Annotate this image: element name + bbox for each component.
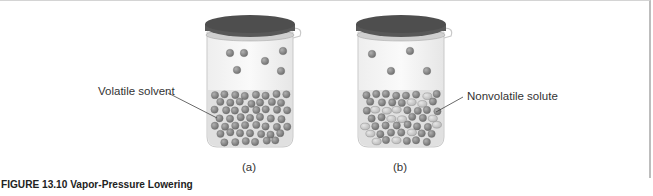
solvent-particle <box>246 114 253 121</box>
beaker-b <box>356 15 452 147</box>
figure-caption: FIGURE 13.10 Vapor-Pressure Lowering <box>1 178 193 190</box>
solvent-particle <box>242 106 249 113</box>
solute-particle <box>432 121 441 128</box>
solvent-particle <box>429 98 436 105</box>
solvent-particle <box>382 122 389 129</box>
solvent-particle <box>236 98 243 105</box>
solvent-particle <box>378 99 385 106</box>
solute-particle <box>397 116 406 123</box>
solvent-particle <box>283 91 290 98</box>
solvent-particle <box>227 99 234 106</box>
solvent-particle <box>363 91 370 98</box>
callout-volatile-solvent: Volatile solvent <box>98 85 175 97</box>
solvent-particle <box>241 121 248 128</box>
solvent-particle <box>277 99 284 106</box>
solvent-particle <box>248 100 255 107</box>
solvent-particle <box>268 98 275 105</box>
solute-particle <box>372 138 381 145</box>
solvent-particle <box>283 107 290 114</box>
solvent-particle <box>211 91 218 98</box>
solvent-particle <box>423 138 430 145</box>
solvent-particle <box>284 123 291 130</box>
solvent-particle <box>424 123 431 130</box>
solvent-particle <box>412 137 419 144</box>
solvent-particle <box>393 92 400 99</box>
solvent-particle <box>277 129 284 136</box>
solvent-particle <box>377 130 384 137</box>
solvent-particle <box>402 92 409 99</box>
solute-particle <box>392 106 401 113</box>
solvent-particle <box>373 90 380 97</box>
solvent-particle <box>221 91 228 98</box>
solvent-particle <box>241 92 248 99</box>
solvent-particle <box>246 130 253 137</box>
solvent-particle <box>232 91 239 98</box>
vapor-molecule <box>233 66 241 74</box>
solvent-particle <box>418 130 425 137</box>
solute-particle <box>407 99 416 106</box>
solvent-particle <box>263 137 270 144</box>
solvent-particle <box>273 106 280 113</box>
solvent-particle <box>226 115 233 122</box>
solvent-particle <box>368 115 375 122</box>
solute-particle <box>366 130 375 137</box>
solvent-particle <box>222 107 229 114</box>
solvent-particle <box>404 107 411 114</box>
solvent-particle <box>414 107 421 114</box>
solvent-particle <box>363 107 370 114</box>
solvent-particle <box>412 91 419 98</box>
solvent-particle <box>262 123 269 130</box>
vapor-molecule <box>279 47 287 55</box>
solvent-particle <box>252 91 259 98</box>
vapor-molecule <box>261 57 269 65</box>
solute-particle <box>387 115 396 122</box>
solute-particle <box>428 115 437 122</box>
vapor-molecule <box>387 67 395 75</box>
solvent-particle <box>237 113 244 120</box>
solvent-particle <box>409 113 416 120</box>
solvent-particle <box>232 122 239 129</box>
solvent-particle <box>278 116 285 123</box>
solvent-particle <box>256 113 263 120</box>
solvent-particle <box>372 122 379 129</box>
solvent-particle <box>398 99 405 106</box>
solute-particle <box>382 107 391 114</box>
solvent-particle <box>267 115 274 122</box>
solvent-particle <box>262 92 269 99</box>
solute-particle <box>392 137 401 144</box>
solvent-particle <box>221 123 228 130</box>
solute-particle <box>418 100 427 107</box>
vapor-molecule <box>368 50 376 58</box>
solvent-particle <box>393 122 400 129</box>
solvent-particle <box>433 90 440 97</box>
solute-particle <box>361 123 370 130</box>
solvent-particle <box>272 137 279 144</box>
solvent-particle <box>378 114 385 121</box>
solvent-particle <box>428 130 435 137</box>
callout-nonvolatile-solute: Nonvolatile solute <box>467 90 558 102</box>
solvent-particle <box>382 136 389 143</box>
solvent-particle <box>216 115 223 122</box>
solute-particle <box>407 129 416 136</box>
solvent-particle <box>253 121 260 128</box>
vapor-molecule <box>406 47 414 55</box>
solvent-particle <box>217 98 224 105</box>
solvent-particle <box>231 107 238 114</box>
solvent-particle <box>367 98 374 105</box>
solvent-particle <box>217 130 224 137</box>
solvent-particle <box>257 130 264 137</box>
solvent-particle <box>211 122 218 129</box>
panel-label-a: (a) <box>242 161 256 173</box>
vapor-molecule <box>277 67 285 75</box>
solvent-particle <box>403 137 410 144</box>
solvent-particle <box>398 129 405 136</box>
solvent-particle <box>382 90 389 97</box>
vapor-molecule <box>423 67 431 75</box>
solvent-particle <box>236 129 243 136</box>
solute-particle <box>371 106 380 113</box>
solvent-particle <box>413 123 420 130</box>
solvent-particle <box>423 106 430 113</box>
solvent-particle <box>262 106 269 113</box>
solvent-particle <box>251 138 258 145</box>
panel-label-b: (b) <box>393 161 407 173</box>
